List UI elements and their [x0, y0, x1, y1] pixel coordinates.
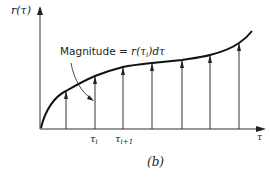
figure-caption: (b)	[147, 155, 164, 169]
y-axis-arrow-icon	[37, 6, 43, 15]
x-axis-label: τ	[257, 132, 263, 142]
magnitude-annotation: Magnitude = r(τi)dτ	[60, 45, 165, 59]
arrowhead-icon	[150, 63, 154, 71]
impulse-decomposition-diagram: r(τ) Magnitude = r(τi)dτ τi τi+1 τ (b)	[0, 0, 271, 179]
annotation-pointer	[71, 63, 92, 99]
tick-label-tau-i: τi	[90, 133, 98, 146]
tick-label-tau-i-plus-1: τi+1	[115, 133, 133, 146]
annotation-formula-tail: )dτ	[147, 45, 165, 57]
arrowhead-icon	[180, 60, 184, 68]
annotation-prefix: Magnitude =	[60, 45, 131, 57]
y-axis-label: r(τ)	[11, 4, 31, 17]
annotation-formula-r: r(τ	[131, 45, 146, 57]
